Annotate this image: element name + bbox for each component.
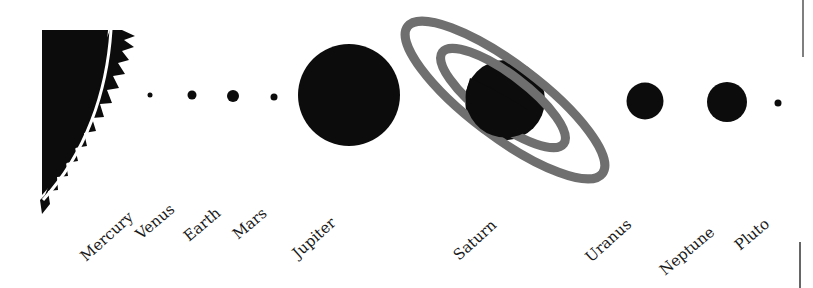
planet-saturn: [386, 0, 624, 202]
label-uranus: Uranus: [582, 215, 635, 266]
label-jupiter: Jupiter: [287, 213, 340, 263]
label-mars: Mars: [229, 204, 271, 243]
label-neptune: Neptune: [656, 223, 718, 279]
label-pluto: Pluto: [731, 215, 773, 254]
planet-earth: [227, 90, 239, 102]
label-saturn: Saturn: [450, 216, 501, 264]
label-mercury: Mercury: [77, 208, 138, 265]
label-earth: Earth: [180, 204, 225, 245]
diagram-canvas: Mercury Venus Earth Mars Jupiter Saturn …: [0, 0, 813, 288]
planet-mars: [271, 94, 278, 101]
planet-neptune: [707, 82, 747, 122]
planet-pluto: [775, 100, 782, 107]
planet-jupiter: [298, 44, 400, 146]
planet-uranus: [627, 83, 664, 120]
planet-venus: [188, 91, 197, 100]
sun: [40, 30, 135, 214]
planet-mercury: [148, 93, 153, 98]
label-venus: Venus: [131, 200, 178, 244]
solar-system-diagram: Mercury Venus Earth Mars Jupiter Saturn …: [0, 0, 813, 288]
